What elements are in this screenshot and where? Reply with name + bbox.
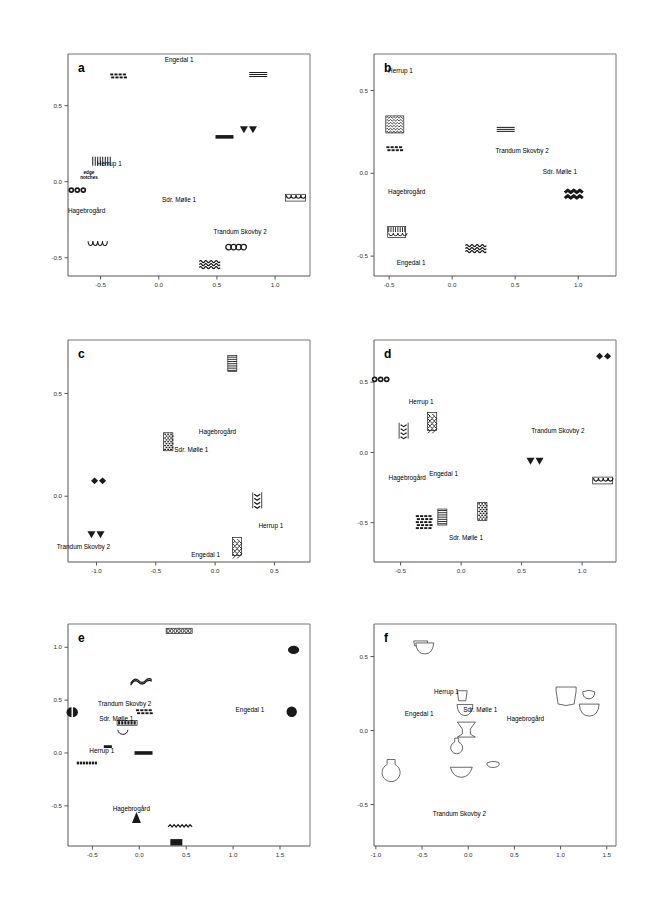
site-label: Herrup 1 bbox=[258, 522, 283, 530]
marker-wavy-band-block bbox=[386, 116, 404, 133]
x-tick-label: 1.5 bbox=[276, 851, 285, 858]
site-label: Herrup 1 bbox=[434, 688, 459, 696]
site-label: Hagebrogård bbox=[389, 474, 427, 482]
marker-solid-bar bbox=[215, 135, 233, 139]
site-label: Herrup 1 bbox=[409, 398, 434, 406]
marker-solid-bar bbox=[135, 751, 153, 755]
panel-letter: c bbox=[78, 347, 85, 361]
x-tick-label: 1.0 bbox=[556, 851, 565, 858]
marker-dense-hatch-block bbox=[164, 433, 174, 451]
panel-c: -1.0-0.50.00.50.50.0cHagebrogårdSdr. Møl… bbox=[34, 330, 322, 588]
site-label: Engedal 1 bbox=[191, 551, 220, 559]
marker-filled-triangles-pair bbox=[527, 458, 544, 465]
site-label: Herrup 1 bbox=[89, 747, 114, 755]
marker-filled-triangles-pair bbox=[240, 126, 257, 133]
marker-scalloped-arcs bbox=[593, 477, 613, 484]
marker-horizontal-lines-thin bbox=[497, 127, 515, 131]
panel-f-plot: -1.0-0.50.00.51.01.50.50.0-0.5fHerrup 1S… bbox=[340, 614, 628, 872]
marker-scale-hatch-block bbox=[427, 412, 436, 433]
panel-letter: f bbox=[384, 631, 389, 645]
marker-dotted-bar bbox=[77, 762, 97, 765]
site-label: Trandum Skovby 2 bbox=[57, 543, 111, 551]
marker-small-bowl-outline bbox=[583, 690, 595, 699]
y-tick-label: 0.5 bbox=[53, 696, 62, 703]
marker-zigzag-line bbox=[168, 825, 192, 827]
marker-small-circles-row bbox=[372, 376, 390, 382]
marker-horizontal-lines-thin bbox=[249, 73, 267, 77]
site-label: Engedal 1 bbox=[165, 56, 194, 64]
marker-wide-bowl-outline bbox=[579, 704, 599, 716]
figure-container: -0.50.00.51.00.50.0-0.5aEngedal 1Herrup … bbox=[0, 0, 662, 921]
site-label: Hagebrogård bbox=[199, 428, 237, 436]
marker-hanging-arcs bbox=[88, 241, 107, 245]
y-tick-label: 0.0 bbox=[359, 449, 368, 456]
y-tick-label: -0.5 bbox=[51, 254, 62, 261]
x-tick-label: 0.0 bbox=[457, 567, 466, 574]
marker-flask-outline bbox=[451, 738, 463, 754]
x-tick-label: 0.0 bbox=[154, 281, 163, 288]
x-tick-label: 0.5 bbox=[270, 567, 279, 574]
marker-filled-triangles-pair bbox=[87, 531, 104, 538]
panel-f: -1.0-0.50.00.51.01.50.50.0-0.5fHerrup 1S… bbox=[340, 614, 628, 872]
x-tick-label: 0.0 bbox=[464, 851, 473, 858]
marker-checkerboard-stamp-small bbox=[136, 709, 153, 714]
x-tick-label: -0.5 bbox=[395, 567, 406, 574]
marker-lid-outline bbox=[487, 762, 500, 768]
site-label: Sdr. Mølle 1 bbox=[543, 168, 578, 175]
marker-globular-jar-outline bbox=[382, 760, 400, 782]
y-tick-label: -0.5 bbox=[357, 519, 368, 526]
x-tick-label: -1.0 bbox=[371, 851, 382, 858]
x-tick-label: -0.5 bbox=[95, 281, 106, 288]
site-label: Sdr. Mølle 1 bbox=[449, 534, 484, 541]
site-label: Trandum Skovby 2 bbox=[495, 147, 549, 155]
panel-d: -0.50.00.51.00.50.0-0.5dHerrup 1Trandum … bbox=[340, 330, 628, 588]
x-tick-label: 1.0 bbox=[578, 567, 587, 574]
y-tick-label: 0.0 bbox=[359, 727, 368, 734]
site-label: Engedal 1 bbox=[397, 259, 426, 267]
y-tick-label: 0.5 bbox=[359, 378, 368, 385]
x-tick-label: -0.5 bbox=[87, 851, 98, 858]
y-tick-label: 0.5 bbox=[359, 653, 368, 660]
x-tick-label: 0.0 bbox=[448, 281, 457, 288]
panel-c-plot: -1.0-0.50.00.50.50.0cHagebrogårdSdr. Møl… bbox=[34, 330, 322, 588]
y-tick-label: 0.5 bbox=[359, 87, 368, 94]
marker-solid-rectangle bbox=[170, 839, 182, 845]
site-label: Hagebrogård bbox=[68, 207, 106, 215]
marker-bold-zigzag bbox=[565, 190, 583, 198]
x-tick-label: 0.0 bbox=[135, 851, 144, 858]
marker-filled-ellipse bbox=[288, 646, 299, 654]
marker-vertical-dashes bbox=[253, 492, 262, 508]
x-tick-label: 0.5 bbox=[510, 851, 519, 858]
site-label: Engedal 1 bbox=[236, 706, 265, 714]
y-tick-label: 1.0 bbox=[53, 643, 62, 650]
marker-small-circles-row bbox=[68, 187, 86, 193]
marker-wavy-cord bbox=[131, 679, 152, 686]
marker-large-beaker-outline bbox=[556, 687, 576, 706]
marker-vertical-dashes bbox=[399, 423, 408, 439]
marker-filled-diamonds-pair bbox=[91, 477, 106, 484]
marker-shallow-dish-outline bbox=[450, 767, 472, 777]
site-label: Sdr. Mølle 1 bbox=[162, 196, 197, 203]
panel-a-plot: -0.50.00.51.00.50.0-0.5aEngedal 1Herrup … bbox=[34, 44, 322, 302]
y-tick-label: -0.5 bbox=[357, 801, 368, 808]
marker-checkerboard-stamp-block bbox=[416, 515, 433, 529]
marker-pellet-row bbox=[166, 628, 192, 633]
marker-wave-lines bbox=[465, 245, 486, 253]
y-tick-label: 0.5 bbox=[53, 102, 62, 109]
marker-filled-triangle bbox=[132, 812, 141, 823]
marker-dense-hatch-block bbox=[478, 502, 488, 520]
marker-wave-lines bbox=[199, 261, 220, 269]
site-label: Trandum Skovby 2 bbox=[98, 700, 152, 708]
site-label: Trandum Skovby 2 bbox=[433, 810, 487, 818]
marker-grid-hatch-block bbox=[388, 227, 407, 238]
marker-half-circle-pair bbox=[67, 707, 78, 717]
site-label: Engedal 1 bbox=[429, 470, 458, 478]
y-tick-label: 0.0 bbox=[53, 749, 62, 756]
marker-arc-stroke bbox=[118, 730, 128, 735]
panel-letter: e bbox=[78, 631, 85, 645]
x-tick-label: 1.0 bbox=[271, 281, 280, 288]
panel-a: -0.50.00.51.00.50.0-0.5aEngedal 1Herrup … bbox=[34, 44, 322, 302]
x-tick-label: -0.5 bbox=[417, 851, 428, 858]
x-tick-label: 1.0 bbox=[229, 851, 238, 858]
site-label: Hagebrogård bbox=[113, 805, 151, 813]
